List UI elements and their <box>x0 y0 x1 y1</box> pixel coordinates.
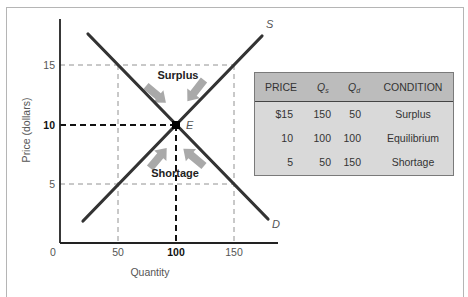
header-price: PRICE <box>265 73 297 101</box>
y-tick-10: 10 <box>43 119 55 131</box>
y-tick-15: 15 <box>43 59 55 71</box>
price-quantity-table: PRICE Qs Qd CONDITION $15 150 50 Surplus… <box>254 72 454 176</box>
table-row: 5 50 150 Shortage <box>255 150 453 174</box>
table-header: PRICE Qs Qd CONDITION <box>255 73 453 102</box>
table-row: $15 150 50 Surplus <box>255 102 453 126</box>
shortage-label: Shortage <box>151 167 199 179</box>
cell-qs: 150 <box>305 102 331 126</box>
equilibrium-label: E <box>186 119 194 131</box>
header-qd-sub: d <box>356 87 360 94</box>
x-tick-50: 50 <box>112 246 124 258</box>
supply-label: S <box>266 18 274 30</box>
surplus-label: Surplus <box>158 69 199 81</box>
cell-condition: Surplus <box>373 102 453 126</box>
header-quantity-demanded: Qd <box>348 73 360 105</box>
x-axis-label: Quantity <box>130 266 170 278</box>
cell-price: $15 <box>263 102 293 126</box>
x-tick-100: 100 <box>167 246 185 258</box>
cell-qd: 150 <box>335 150 361 174</box>
header-qs-sub: s <box>325 87 329 94</box>
header-condition: CONDITION <box>373 73 453 101</box>
cell-qd: 100 <box>335 126 361 150</box>
cell-qs: 50 <box>305 150 331 174</box>
y-axis-label: Price (dollars) <box>20 98 32 163</box>
table-row: 10 100 100 Equilibrium <box>255 126 453 150</box>
equilibrium-point <box>172 121 180 129</box>
y-tick-5: 5 <box>49 178 55 190</box>
x-tick-150: 150 <box>225 246 243 258</box>
cell-condition: Shortage <box>373 150 453 174</box>
cell-condition: Equilibrium <box>373 126 453 150</box>
demand-label: D <box>272 218 280 230</box>
cell-qs: 100 <box>305 126 331 150</box>
cell-price: 10 <box>263 126 293 150</box>
cell-qd: 50 <box>335 102 361 126</box>
x-tick-0: 0 <box>50 246 56 258</box>
header-qd-letter: Q <box>348 81 356 93</box>
cell-price: 5 <box>263 150 293 174</box>
header-qs-letter: Q <box>317 81 325 93</box>
header-quantity-supplied: Qs <box>317 73 329 105</box>
